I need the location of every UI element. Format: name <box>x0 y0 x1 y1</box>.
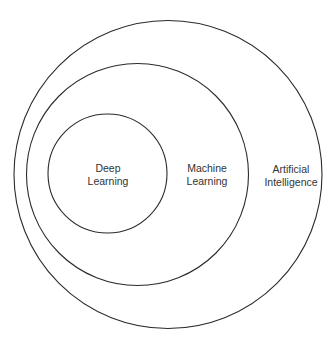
artificial-intelligence-label: Artificial Intelligence <box>264 163 317 188</box>
machine-learning-label-line-1: Machine <box>187 162 227 174</box>
deep-learning-label-line-1: Deep <box>95 162 120 174</box>
nested-venn-diagram: Deep Learning Machine Learning Artificia… <box>0 0 332 341</box>
artificial-intelligence-label-line-2: Intelligence <box>264 176 317 188</box>
machine-learning-label-line-2: Learning <box>187 175 228 187</box>
deep-learning-label: Deep Learning <box>88 162 129 187</box>
deep-learning-label-line-2: Learning <box>88 175 129 187</box>
machine-learning-label: Machine Learning <box>187 162 228 187</box>
artificial-intelligence-label-line-1: Artificial <box>273 163 310 175</box>
